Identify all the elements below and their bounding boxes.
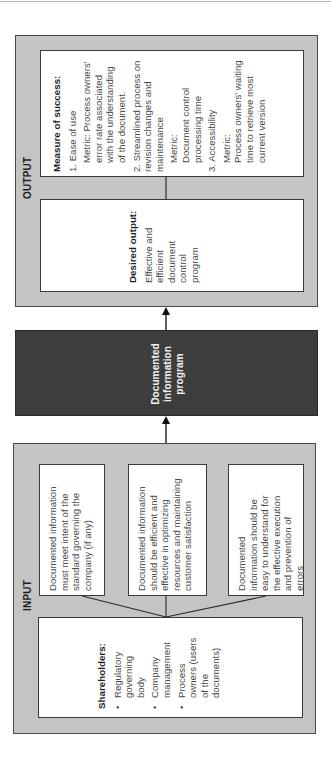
program-label: Documented information program bbox=[150, 343, 186, 405]
requirement-text-3: Documented information should be easy to… bbox=[236, 495, 304, 591]
bullet-icon: • bbox=[149, 698, 172, 709]
measure-item-3-metric-label: Metric: bbox=[221, 59, 233, 172]
shareholders-box: Shareholders: • Regulatory governing bod… bbox=[38, 617, 303, 718]
desired-output-heading: Desired output: bbox=[127, 206, 139, 283]
desired-output-text: Effective and efficient document control… bbox=[143, 225, 201, 283]
measure-item-2-metric: Document control processing time bbox=[180, 59, 203, 172]
input-label: INPUT bbox=[22, 580, 33, 611]
measure-item-1-metric: Metric: Process owners' error rate assoc… bbox=[81, 59, 127, 172]
measure-item-2-metric-label: Metric: bbox=[168, 59, 180, 172]
requirement-box-1: Documented information must meet intent … bbox=[39, 464, 105, 596]
shareholder-item-3: • Process owners (users of the documents… bbox=[176, 622, 222, 709]
measure-item-3-metric: Process owners' waiting time to retrieve… bbox=[232, 59, 267, 172]
desired-output-box: Desired output: Effective and efficient … bbox=[40, 199, 304, 292]
measure-of-success-box: Measure of success: 1. Ease of use Metri… bbox=[40, 50, 304, 177]
requirement-box-3: Documented information should be easy to… bbox=[228, 464, 304, 596]
requirement-text-1: Documented information must meet intent … bbox=[47, 469, 93, 591]
measure-item-2-title: 2. Streamlined process on revision chang… bbox=[131, 59, 166, 172]
shareholders-heading: Shareholders: bbox=[96, 622, 108, 709]
measure-item-3-title: 3. Accessibility bbox=[206, 59, 218, 172]
requirement-box-2: Documented information should be efficie… bbox=[128, 464, 207, 596]
bullet-icon: • bbox=[176, 698, 222, 709]
measure-item-1-title: 1. Ease of use bbox=[67, 59, 79, 172]
measure-heading: Measure of success: bbox=[51, 59, 63, 172]
shareholder-item-2: • Company management bbox=[149, 622, 172, 709]
bullet-icon: • bbox=[112, 698, 147, 709]
requirement-text-2: Documented information should be efficie… bbox=[136, 469, 194, 591]
documented-information-program-box: Documented information program bbox=[15, 330, 318, 416]
page-top-rule bbox=[0, 1, 331, 2]
shareholder-item-1: • Regulatory governing body bbox=[112, 622, 147, 709]
output-label: OUTPUT bbox=[22, 157, 33, 199]
